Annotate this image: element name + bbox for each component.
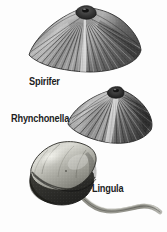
- brachiopod-illustration-figure: Spirifer Rhynchonella Lingula: [0, 0, 167, 232]
- rhynchonella-beak-umbo: [107, 87, 124, 99]
- specimen-label-rhynchonella: Rhynchonella: [11, 114, 69, 124]
- specimen-spirifer: [20, 0, 150, 80]
- specimen-rhynchonella: [60, 84, 160, 148]
- lingula-muscle-scar: [65, 170, 67, 172]
- specimen-label-lingula: Lingula: [92, 184, 123, 194]
- specimen-label-spirifer: Spirifer: [29, 77, 60, 87]
- specimen-lingula: [24, 138, 160, 212]
